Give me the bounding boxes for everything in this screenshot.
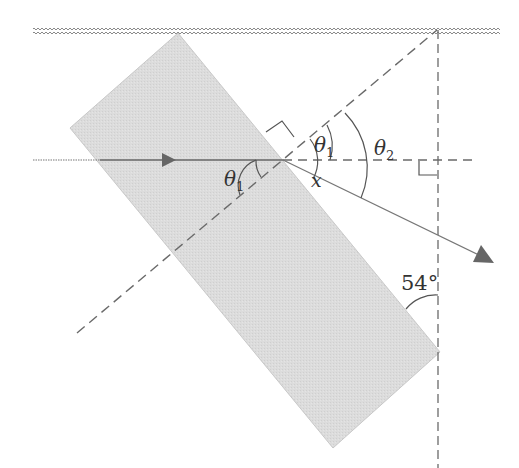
angle-54-arc [406, 295, 438, 309]
right-angle-mark-vertical [419, 161, 437, 175]
right-angle-mark-slab [266, 121, 294, 137]
refraction-diagram: θ1 θ1 θ2 x 54° [0, 0, 519, 468]
theta2-arc [345, 113, 367, 198]
theta2-label: θ2 [374, 136, 394, 163]
x-angle-label: x [311, 169, 322, 191]
surface-boundary [33, 26, 500, 34]
glass-slab [70, 33, 440, 448]
angle-54-label: 54° [401, 271, 438, 295]
